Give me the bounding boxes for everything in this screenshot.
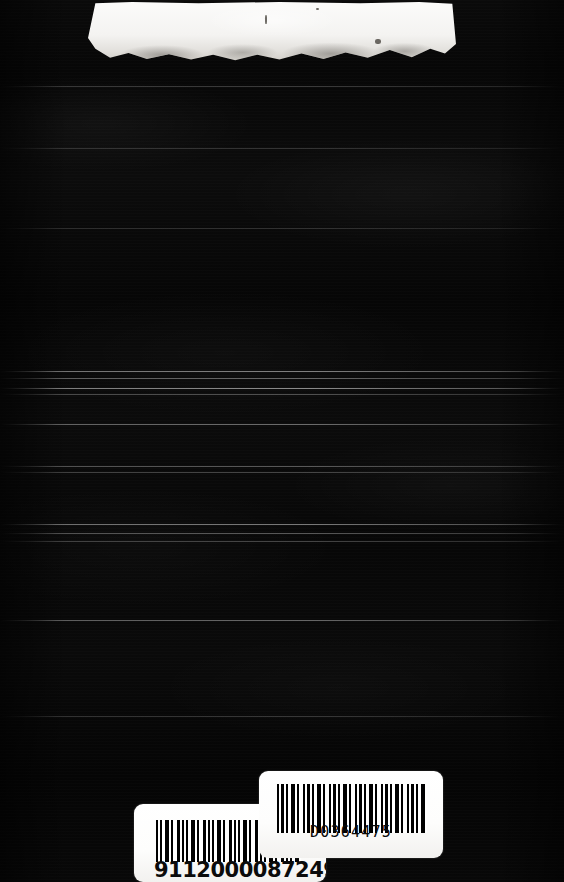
scanned-book-cover: 9112000087249 D0364475 xyxy=(0,0,564,882)
label-speck xyxy=(316,8,319,10)
barcode-number-upper: D0364475 xyxy=(259,823,443,841)
torn-label-residue xyxy=(88,2,456,62)
label-speck xyxy=(265,15,267,24)
label-paper xyxy=(88,2,456,62)
label-speck xyxy=(375,39,381,44)
barcode-label-upper[interactable]: D0364475 xyxy=(259,771,443,858)
cover-background xyxy=(0,0,564,882)
label-fiber-texture xyxy=(88,2,456,62)
barcode-number-lower: 9112000087249 xyxy=(154,858,326,882)
